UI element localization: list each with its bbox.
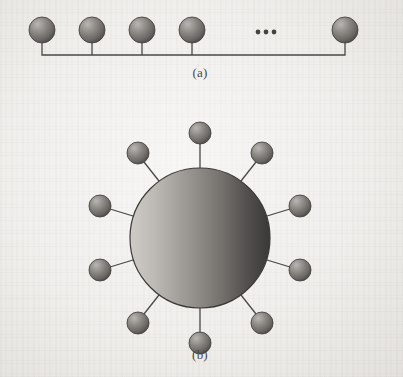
satellite-node-7 xyxy=(127,312,149,334)
spoke-9 xyxy=(110,209,133,216)
spoke-4 xyxy=(267,260,290,267)
bus-node-5 xyxy=(332,17,358,43)
ellipsis-dot-3 xyxy=(272,30,277,35)
satellite-node-8 xyxy=(89,259,111,281)
spoke-3 xyxy=(267,209,290,216)
bus-node-1 xyxy=(29,17,55,43)
spoke-8 xyxy=(110,260,133,267)
bus-node-4 xyxy=(179,17,205,43)
figure-page: (a) (b) xyxy=(0,0,403,377)
satellite-node-9 xyxy=(89,195,111,217)
satellite-node-10 xyxy=(127,142,149,164)
ellipsis-dot-1 xyxy=(256,30,261,35)
satellite-node-1 xyxy=(189,122,211,144)
satellite-node-2 xyxy=(251,142,273,164)
bus-node-3 xyxy=(129,17,155,43)
spoke-10 xyxy=(144,162,159,181)
bus-node-2 xyxy=(79,17,105,43)
spoke-2 xyxy=(241,162,256,181)
panel-b-star-topology xyxy=(89,122,311,354)
topology-diagram xyxy=(0,0,403,377)
spoke-7 xyxy=(144,295,159,314)
panel-a-bus-topology xyxy=(29,17,358,55)
satellite-node-4 xyxy=(289,259,311,281)
satellite-node-5 xyxy=(251,312,273,334)
spoke-5 xyxy=(241,295,256,314)
hub-node xyxy=(130,168,270,308)
panel-b-caption: (b) xyxy=(180,347,220,363)
ellipsis-dot-2 xyxy=(264,30,269,35)
satellite-node-3 xyxy=(289,195,311,217)
panel-a-caption: (a) xyxy=(180,65,220,81)
ellipsis-marker xyxy=(256,30,277,35)
